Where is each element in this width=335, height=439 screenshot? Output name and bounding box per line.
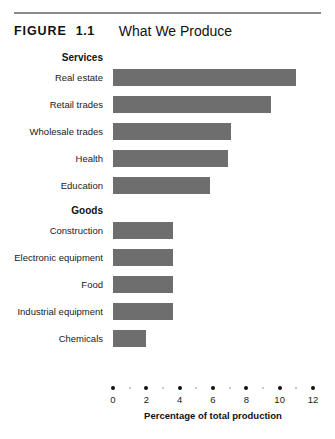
bar-category-label: Electronic equipment (0, 248, 108, 267)
axis-minor-tick (162, 387, 164, 389)
bar-category-label: Real estate (0, 68, 108, 87)
bar (113, 96, 271, 113)
bar-category-label: Wholesale trades (0, 122, 108, 141)
bar (113, 150, 228, 167)
bar-row: Industrial equipment (0, 302, 335, 321)
bar-row: Health (0, 149, 335, 168)
bar (113, 249, 173, 266)
bar (113, 69, 296, 86)
bar-category-label: Chemicals (0, 329, 108, 348)
axis-tick-label: 0 (101, 394, 125, 405)
axis-minor-tick (229, 387, 231, 389)
bar (113, 330, 146, 347)
axis-major-tick (211, 386, 215, 390)
bar (113, 303, 173, 320)
axis-tick-label: 4 (168, 394, 192, 405)
bar (113, 276, 173, 293)
figure-title: What We Produce (119, 23, 232, 39)
bar-row: Retail trades (0, 95, 335, 114)
bar-category-label: Health (0, 149, 108, 168)
axis-tick-label: 2 (134, 394, 158, 405)
bar (113, 222, 173, 239)
bar-row: Real estate (0, 68, 335, 87)
bar-row: Construction (0, 221, 335, 240)
bar-category-label: Construction (0, 221, 108, 240)
axis-minor-tick (195, 387, 197, 389)
figure-tag-label: FIGURE (14, 24, 67, 38)
group-header-goods: Goods (0, 205, 103, 216)
axis-major-tick (244, 386, 248, 390)
bar-category-label: Education (0, 176, 108, 195)
bar (113, 177, 210, 194)
figure-number-label: 1.1 (76, 24, 95, 38)
bar-category-label: Retail trades (0, 95, 108, 114)
bar-category-label: Food (0, 275, 108, 294)
axis-major-tick (278, 386, 282, 390)
axis-tick-label: 12 (301, 394, 325, 405)
axis-tick-label: 10 (268, 394, 292, 405)
bar (113, 123, 231, 140)
axis-tick-label: 6 (201, 394, 225, 405)
header-divider (14, 12, 321, 14)
bar-row: Food (0, 275, 335, 294)
axis-minor-tick (295, 387, 297, 389)
bar-row: Chemicals (0, 329, 335, 348)
bar-row: Electronic equipment (0, 248, 335, 267)
axis-minor-tick (262, 387, 264, 389)
bar-category-label: Industrial equipment (0, 302, 108, 321)
bar-row: Education (0, 176, 335, 195)
axis-minor-tick (129, 387, 131, 389)
axis-major-tick (111, 386, 115, 390)
x-axis-title: Percentage of total production (113, 410, 313, 421)
figure-container: FIGURE 1.1 What We Produce ServicesReal … (0, 0, 335, 439)
axis-major-tick (178, 386, 182, 390)
axis-major-tick (144, 386, 148, 390)
bar-row: Wholesale trades (0, 122, 335, 141)
figure-header: FIGURE 1.1 What We Produce (14, 20, 321, 42)
axis-major-tick (311, 386, 315, 390)
group-header-services: Services (0, 52, 103, 63)
axis-tick-label: 8 (234, 394, 258, 405)
bar-chart-plot-area: ServicesReal estateRetail tradesWholesal… (0, 52, 335, 439)
